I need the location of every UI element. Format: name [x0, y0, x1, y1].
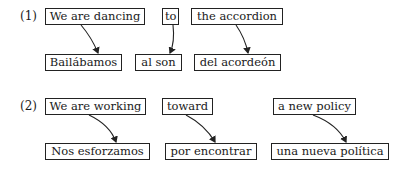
example-label-1: (1)	[20, 8, 37, 24]
example-label-2: (2)	[20, 98, 37, 114]
target-phrase: por encontrar	[165, 143, 257, 160]
arrow-2-2	[186, 115, 215, 142]
target-phrase: una nueva política	[271, 143, 389, 160]
source-phrase: toward	[162, 98, 213, 115]
target-phrase: del acordeón	[194, 54, 281, 71]
source-phrase: a new policy	[273, 98, 356, 115]
source-phrase: We are working	[45, 98, 146, 115]
arrow-2-1	[89, 115, 116, 142]
target-phrase: Bailábamos	[45, 54, 122, 71]
arrow-2-3	[313, 115, 346, 142]
source-phrase: the accordion	[191, 8, 283, 25]
arrow-1-1	[81, 25, 98, 53]
target-phrase: al son	[135, 54, 182, 71]
source-phrase: We are dancing	[45, 8, 145, 25]
target-phrase: Nos esforzamos	[45, 143, 150, 160]
alignment-diagram: (1) We are dancing to the accordion Bail…	[0, 0, 408, 169]
arrow-1-3	[236, 25, 248, 53]
arrow-1-2	[170, 25, 174, 53]
source-phrase: to	[162, 8, 179, 25]
